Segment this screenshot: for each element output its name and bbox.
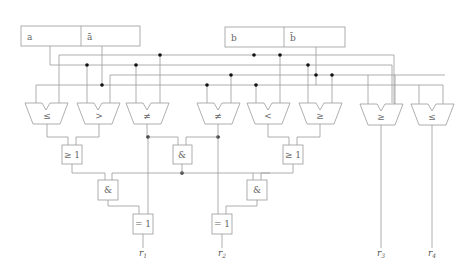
svg-text:>: > [95,111,103,121]
register-b-neg-label: b̄ [290,32,296,43]
register-b: b b̄ [225,27,345,47]
register-a-label: a [27,32,33,42]
svg-text:≥ 1: ≥ 1 [64,150,80,160]
svg-text:r2: r2 [218,248,226,259]
or-gate-left: ≥ 1 [62,145,82,164]
svg-text:≥: ≥ [377,112,385,122]
comparator-6: ≥ [299,103,342,124]
and-gate-mid: & [173,145,192,164]
comparator-7: ≥ [360,104,403,125]
register-a: a ā [21,26,140,46]
svg-text:≤: ≤ [43,111,51,121]
output-r4: r4 [428,248,436,259]
and-gate-left: & [98,180,118,200]
comparator-3: ≠ [126,103,169,124]
svg-text:≠: ≠ [214,111,222,121]
svg-text:&: & [104,185,112,195]
and-gate-right: & [247,180,267,200]
bus-wires [36,46,445,104]
svg-text:≤: ≤ [428,112,436,122]
svg-text:r3: r3 [377,248,385,259]
drop-wires [87,55,419,104]
output-r2: r2 [218,248,226,259]
logic-circuit-diagram: a ā b b̄ [0,0,474,271]
svg-text:≥ 1: ≥ 1 [285,150,301,160]
xor-gate-right: = 1 [212,214,232,234]
svg-text:≠: ≠ [143,111,151,121]
svg-text:r1: r1 [139,248,147,259]
output-r3: r3 [377,248,385,259]
svg-text:&: & [178,150,186,160]
xor-gate-left: = 1 [133,214,153,234]
svg-text:r4: r4 [428,248,436,259]
comparator-2: > [77,103,120,124]
svg-text:&: & [253,185,261,195]
comparator-1: ≤ [25,103,68,124]
or-gate-right: ≥ 1 [283,145,303,164]
svg-text:≥: ≥ [316,111,324,121]
svg-text:= 1: = 1 [135,219,151,229]
svg-text:<: < [264,111,272,121]
svg-text:= 1: = 1 [214,219,230,229]
register-a-neg-label: ā [87,32,93,42]
output-r1: r1 [139,248,147,259]
comparator-4: ≠ [197,103,240,124]
register-b-label: b [231,33,237,43]
comparator-5: < [247,103,290,124]
comparator-8: ≤ [411,104,454,125]
